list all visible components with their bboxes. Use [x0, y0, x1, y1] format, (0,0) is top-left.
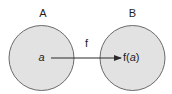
function-mapping-diagram: A a B f(a) f	[0, 0, 172, 94]
set-b: B f(a)	[100, 7, 165, 91]
set-b-label: B	[129, 7, 136, 19]
set-a: A a	[9, 7, 74, 91]
element-fa-label: f(a)	[123, 51, 140, 63]
set-a-label: A	[39, 7, 47, 19]
mapping-label: f	[85, 37, 89, 49]
fa-suffix: )	[136, 51, 140, 63]
element-a-label: a	[38, 51, 44, 63]
